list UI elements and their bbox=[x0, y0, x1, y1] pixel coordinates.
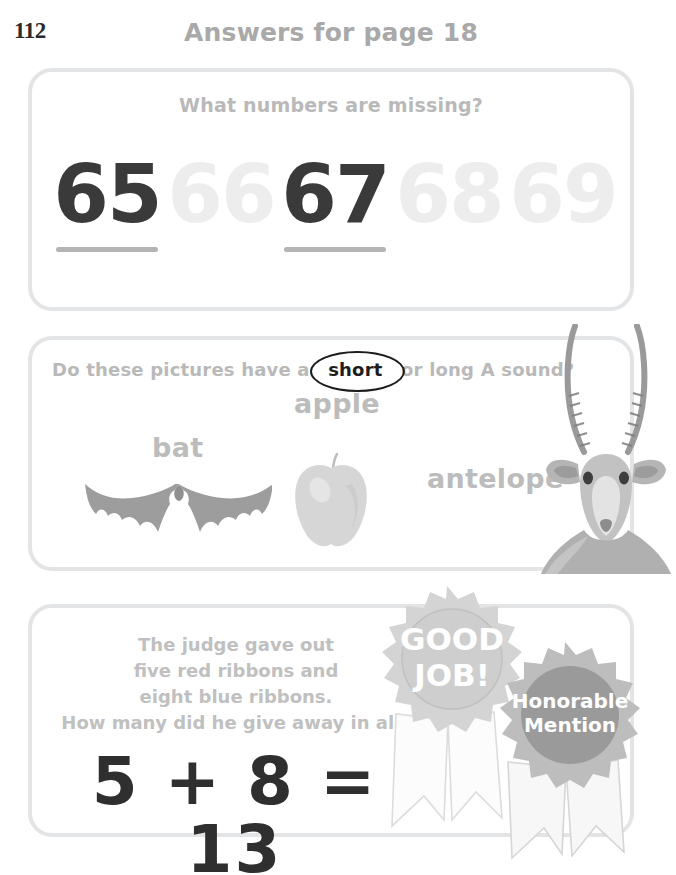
number-printed-66: 66 bbox=[164, 154, 278, 236]
number-sequence: 65 66 67 68 69 bbox=[50, 154, 620, 236]
exercise-prompt: What numbers are missing? bbox=[32, 94, 630, 116]
page-title: Answers for page 18 bbox=[0, 18, 662, 47]
exercise-short-long-a: Do these pictures have a short or long A… bbox=[28, 336, 634, 571]
number-answer-67: 67 bbox=[278, 154, 392, 236]
award-ribbon-honorable-mention: Honorable Mention bbox=[470, 640, 670, 875]
apple-illustration bbox=[290, 452, 372, 552]
number-cell: 65 bbox=[50, 154, 164, 236]
picture-label-apple: apple bbox=[294, 388, 380, 419]
prompt-text-before: Do these pictures have a bbox=[52, 359, 310, 380]
number-cell: 68 bbox=[392, 154, 506, 236]
answer-blank-line bbox=[56, 247, 158, 252]
number-cell: 67 bbox=[278, 154, 392, 236]
picture-label-bat: bat bbox=[152, 432, 203, 463]
answer-blank-line bbox=[284, 247, 386, 252]
number-answer-65: 65 bbox=[50, 154, 164, 236]
number-cell: 66 bbox=[164, 154, 278, 236]
award-line-2: Mention bbox=[524, 713, 616, 737]
exercise-missing-numbers: What numbers are missing? 65 66 67 68 69 bbox=[28, 68, 634, 311]
circled-answer-short: short bbox=[316, 358, 394, 381]
number-printed-69: 69 bbox=[506, 154, 620, 236]
number-printed-68: 68 bbox=[392, 154, 506, 236]
number-cell: 69 bbox=[506, 154, 620, 236]
award-line-1: Honorable bbox=[512, 689, 629, 713]
antelope-illustration bbox=[522, 324, 676, 574]
bat-illustration bbox=[82, 470, 272, 560]
